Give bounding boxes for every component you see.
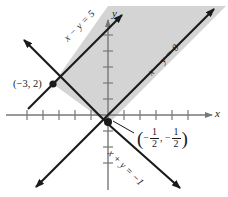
point-marker-neg3-2 <box>49 80 56 87</box>
label-comma: , <box>160 132 163 143</box>
line-x-minus-y-0-lower <box>36 115 108 187</box>
coordinate-graph-figure: y x x − y = 5 x − y = 0 x + y = −1 (−3, … <box>0 0 228 197</box>
fraction-first-numerator: 1 <box>150 127 159 139</box>
fraction-second-numerator: 1 <box>172 127 181 139</box>
paren-close: ) <box>182 128 188 149</box>
fraction-first-denominator: 2 <box>150 139 159 150</box>
minus-sign-2: − <box>165 132 171 143</box>
point-label-neg-half: (−12, −12) <box>137 127 188 149</box>
graph-canvas <box>0 0 228 197</box>
fraction-second-denominator: 2 <box>172 139 181 150</box>
x-axis-label: x <box>215 108 220 119</box>
fraction-second: 12 <box>172 127 181 149</box>
fraction-first: 12 <box>150 127 159 149</box>
minus-sign-1: − <box>143 132 149 143</box>
point-label-neg3-2: (−3, 2) <box>13 79 42 90</box>
point-marker-neg-half <box>104 118 112 126</box>
y-axis-label: y <box>112 8 117 19</box>
